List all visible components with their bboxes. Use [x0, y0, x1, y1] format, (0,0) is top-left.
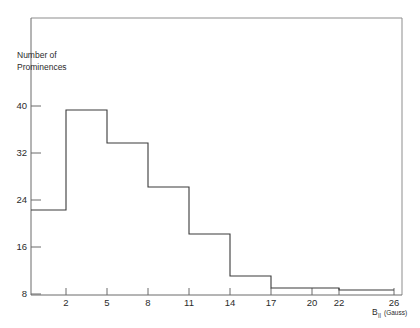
y-axis-title: Number of Prominences: [17, 50, 67, 72]
x-tick-label: 2: [63, 297, 68, 308]
x-tick-label: 11: [184, 297, 194, 308]
histogram-step-line: [31, 110, 394, 290]
histogram-svg: 40 32 24 16 8 2 5 8 11 14 17 20 22: [0, 0, 420, 328]
y-tick-label: 32: [16, 147, 27, 158]
x-axis-ticks: [66, 288, 394, 295]
x-tick-label: 22: [334, 297, 345, 308]
y-tick-label: 40: [16, 100, 27, 111]
histogram-figure: 40 32 24 16 8 2 5 8 11 14 17 20 22: [0, 0, 420, 328]
x-axis-title-units: (Gauss): [384, 309, 407, 317]
y-axis-tick-labels: 40 32 24 16 8: [16, 100, 27, 299]
x-axis-title-subscript: ||: [378, 312, 382, 318]
plot-axes: [31, 18, 402, 295]
y-tick-label: 16: [16, 241, 27, 252]
x-axis-title: B || (Gauss): [372, 307, 407, 318]
x-tick-label: 20: [307, 297, 318, 308]
y-tick-label: 8: [22, 288, 27, 299]
y-axis-title-line1: Number of: [17, 50, 57, 60]
y-axis-ticks: [31, 106, 41, 294]
x-tick-label: 5: [104, 297, 109, 308]
y-tick-label: 24: [16, 194, 27, 205]
x-tick-label: 14: [225, 297, 236, 308]
x-axis-tick-labels: 2 5 8 11 14 17 20 22 26: [63, 297, 399, 308]
y-axis-title-line2: Prominences: [17, 62, 67, 72]
x-tick-label: 8: [145, 297, 150, 308]
x-tick-label: 26: [389, 297, 400, 308]
x-tick-label: 17: [266, 297, 277, 308]
plot-frame: [31, 18, 402, 295]
